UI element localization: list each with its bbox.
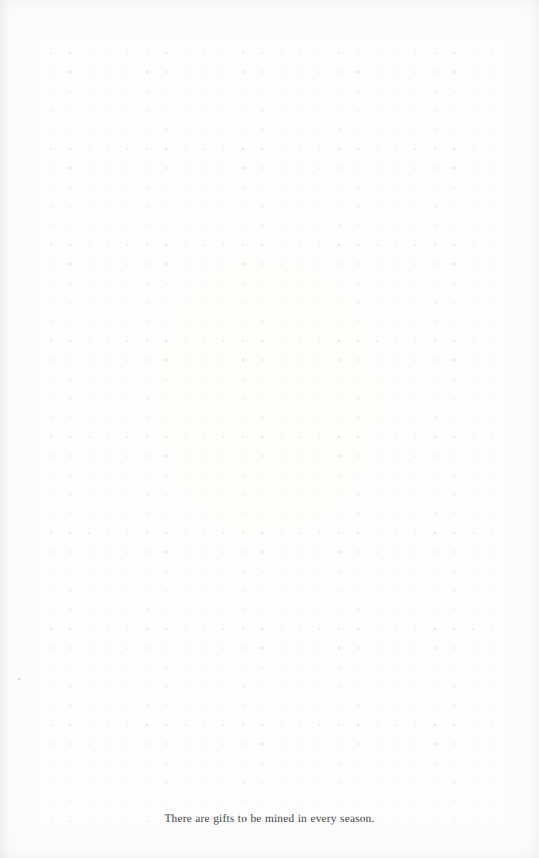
paper-background bbox=[0, 0, 539, 858]
notebook-page: There are gifts to be mined in every sea… bbox=[0, 0, 539, 858]
page-caption: There are gifts to be mined in every sea… bbox=[0, 812, 539, 827]
